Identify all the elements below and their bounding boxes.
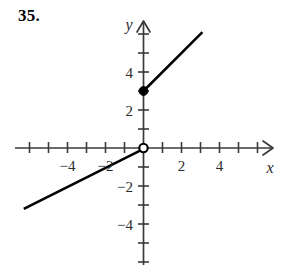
x-tick-label-4: 4 (216, 158, 224, 174)
graph-figure: 35. (0, 0, 295, 274)
open-endpoint-circle (139, 144, 147, 152)
y-tick-label-2: 2 (126, 103, 134, 119)
x-tick-label-2: 2 (178, 158, 186, 174)
closed-endpoint-dot (139, 87, 148, 96)
x-axis-label: x (265, 159, 273, 176)
x-tick-label--2: −2 (98, 158, 114, 174)
y-axis-label: y (123, 16, 133, 34)
function-branch-right (144, 32, 203, 91)
coordinate-plane-svg: −4 −2 2 4 4 2 −2 −4 y x (0, 0, 295, 274)
y-tick-label--2: −2 (117, 179, 133, 195)
y-tick-label-4: 4 (126, 65, 134, 81)
x-tick-label--4: −4 (60, 158, 76, 174)
y-tick-label--4: −4 (117, 217, 133, 233)
